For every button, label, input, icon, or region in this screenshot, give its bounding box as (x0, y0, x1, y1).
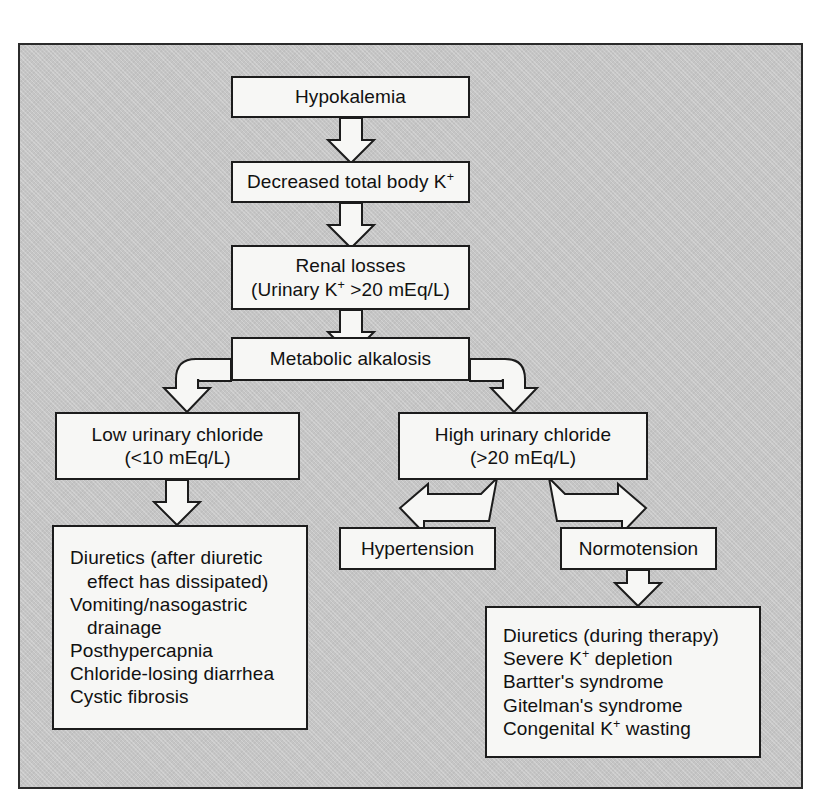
node-high-urinary-chloride-line2: (>20 mEq/L) (470, 446, 576, 469)
low-cause-item: Vomiting/nasogastric (70, 593, 247, 616)
node-normotension-label: Normotension (579, 537, 698, 560)
normotension-cause-item: Congenital K+ wasting (503, 717, 691, 740)
figure-root: Hypokalemia Decreased total body K+ Rena… (0, 0, 823, 808)
normotension-cause-item: Gitelman's syndrome (503, 694, 683, 717)
node-hypokalemia: Hypokalemia (231, 76, 470, 118)
superscript-plus: + (447, 170, 454, 184)
node-renal-losses-line2: (Urinary K+ >20 mEq/L) (251, 278, 450, 301)
node-decreased-total-body-k-label: Decreased total body K+ (247, 170, 454, 193)
node-low-chloride-causes: Diuretics (after diuretic effect has dis… (52, 525, 308, 730)
node-renal-losses-line1: Renal losses (296, 254, 406, 277)
low-cause-item: Posthypercapnia (70, 639, 213, 662)
node-metabolic-alkalosis: Metabolic alkalosis (231, 337, 470, 381)
node-hypokalemia-label: Hypokalemia (295, 85, 406, 108)
normotension-cause-item: Severe K+ depletion (503, 647, 673, 670)
node-low-urinary-chloride-line1: Low urinary chloride (91, 423, 263, 446)
node-decreased-total-body-k: Decreased total body K+ (231, 161, 470, 203)
node-renal-losses: Renal losses (Urinary K+ >20 mEq/L) (231, 245, 470, 310)
low-cause-item: effect has dissipated) (70, 570, 268, 593)
node-normotension-causes: Diuretics (during therapy) Severe K+ dep… (485, 606, 761, 758)
low-cause-item: Chloride-losing diarrhea (70, 662, 274, 685)
node-low-urinary-chloride: Low urinary chloride (<10 mEq/L) (55, 412, 300, 480)
node-low-urinary-chloride-line2: (<10 mEq/L) (124, 446, 230, 469)
node-normotension: Normotension (560, 527, 717, 570)
normotension-cause-item: Diuretics (during therapy) (503, 624, 719, 647)
superscript-plus: + (337, 277, 344, 291)
normotension-cause-item: Bartter's syndrome (503, 670, 664, 693)
node-hypertension: Hypertension (339, 527, 496, 570)
node-high-urinary-chloride: High urinary chloride (>20 mEq/L) (398, 412, 648, 480)
node-hypertension-label: Hypertension (361, 537, 474, 560)
low-cause-item: drainage (70, 616, 162, 639)
node-metabolic-alkalosis-label: Metabolic alkalosis (270, 347, 431, 370)
low-cause-item: Diuretics (after diuretic (70, 546, 263, 569)
low-cause-item: Cystic fibrosis (70, 685, 189, 708)
node-high-urinary-chloride-line1: High urinary chloride (435, 423, 611, 446)
